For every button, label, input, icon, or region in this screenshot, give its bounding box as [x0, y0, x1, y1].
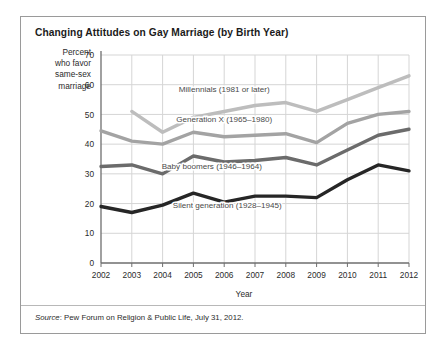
source-text: : Pew Forum on Religion & Public Life, J…: [60, 313, 244, 322]
y-tick-label: 60: [85, 80, 95, 90]
x-tick-label: 2012: [400, 270, 419, 280]
series-label: Baby boomers (1946–1964): [162, 162, 263, 171]
x-tick-label: 2004: [153, 270, 172, 280]
y-tick-label: 20: [85, 199, 95, 209]
x-axis-tick-labels: 2002200320042005200620072008200920102011…: [92, 270, 419, 280]
x-tick-label: 2006: [215, 270, 234, 280]
x-tick-label: 2011: [369, 270, 387, 280]
source-label: Source: [35, 313, 60, 322]
divider: [21, 305, 425, 306]
y-axis-tick-labels: 010203040506070: [85, 50, 95, 268]
line-chart-plot: 010203040506070 200220032004200520062007…: [21, 17, 425, 307]
x-tick-label: 2007: [246, 270, 265, 280]
chart-figure-root: Changing Attitudes on Gay Marriage (by B…: [0, 0, 448, 353]
figure-border-box: Changing Attitudes on Gay Marriage (by B…: [20, 16, 426, 334]
series-label: Generation X (1965–1980): [176, 115, 272, 124]
x-tick-label: 2009: [307, 270, 326, 280]
x-tick-label: 2010: [338, 270, 357, 280]
x-axis-title: Year: [21, 289, 425, 299]
y-tick-label: 0: [89, 258, 94, 268]
y-tick-label: 30: [85, 169, 95, 179]
x-tick-label: 2002: [92, 270, 111, 280]
y-tick-label: 50: [85, 110, 95, 120]
series-label: Millennials (1981 or later): [179, 85, 270, 94]
y-tick-label: 10: [85, 228, 95, 238]
y-tick-label: 40: [85, 139, 95, 149]
x-tick-label: 2005: [184, 270, 203, 280]
x-axis-title-text: Year: [236, 289, 253, 299]
y-tick-label: 70: [85, 50, 95, 60]
x-tick-label: 2008: [277, 270, 296, 280]
x-tick-label: 2003: [123, 270, 142, 280]
series-label: Silent generation (1928–1945): [173, 201, 282, 210]
source-note: Source: Pew Forum on Religion & Public L…: [35, 313, 243, 322]
